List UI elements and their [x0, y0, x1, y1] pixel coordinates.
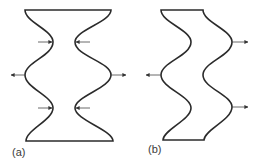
shape-b-outline — [161, 10, 232, 140]
panel-a: (a) — [11, 10, 126, 158]
panel-b-label: (b) — [148, 143, 161, 155]
panel-a-label: (a) — [12, 146, 25, 158]
diagram-canvas: (a) (b) — [0, 0, 262, 165]
panel-b: (b) — [146, 10, 248, 155]
shape-a-outline — [25, 10, 113, 141]
